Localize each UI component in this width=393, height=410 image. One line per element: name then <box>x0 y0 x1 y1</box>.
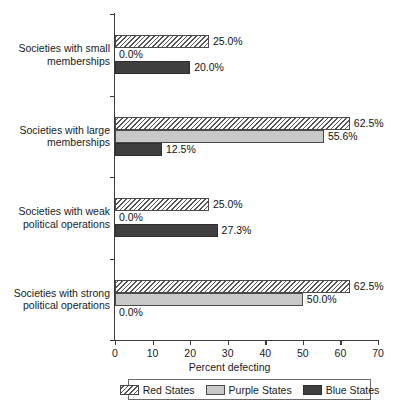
y-tick-1 <box>110 96 115 97</box>
legend-label-purple: Purple States <box>229 384 292 396</box>
legend-swatch-blue <box>303 385 322 395</box>
category-label-line: Societies with weak <box>2 205 110 218</box>
bar-value-label-blue-3: 0.0% <box>119 306 143 319</box>
bar-value-label-purple-0: 0.0% <box>119 48 143 61</box>
x-axis-title: Percent defecting <box>0 361 393 373</box>
bar-value-label-blue-2: 27.3% <box>222 224 252 237</box>
legend-label-blue: Blue States <box>326 384 380 396</box>
category-label-line: political operations <box>2 218 110 231</box>
bar-blue-2 <box>115 224 218 237</box>
x-tick-label-10: 10 <box>147 347 159 359</box>
legend-item-purple: Purple States <box>206 384 292 396</box>
category-label-line: Societies with strong <box>2 287 110 300</box>
x-tick-label-0: 0 <box>112 347 118 359</box>
x-tick-label-70: 70 <box>372 347 384 359</box>
category-label-line: memberships <box>2 136 110 149</box>
x-tick-label-50: 50 <box>297 347 309 359</box>
bar-value-label-purple-1: 55.6% <box>328 130 358 143</box>
x-tick-label-20: 20 <box>184 347 196 359</box>
category-label-line: memberships <box>2 55 110 68</box>
x-tick-40 <box>265 340 266 345</box>
bar-purple-3 <box>115 293 303 306</box>
x-tick-label-30: 30 <box>222 347 234 359</box>
bar-blue-1 <box>115 143 162 156</box>
bar-red-2 <box>115 198 209 211</box>
bar-red-3 <box>115 280 350 293</box>
bar-value-label-blue-1: 12.5% <box>166 143 196 156</box>
x-tick-label-40: 40 <box>259 347 271 359</box>
bar-value-label-red-2: 25.0% <box>213 198 243 211</box>
x-tick-10 <box>153 340 154 345</box>
y-tick-2 <box>110 177 115 178</box>
plot-area: 25.0%0.0%20.0%62.5%55.6%12.5%25.0%0.0%27… <box>115 14 378 340</box>
y-tick-0 <box>110 14 115 15</box>
legend-swatch-purple <box>206 385 225 395</box>
bar-red-1 <box>115 117 350 130</box>
category-label-line: Societies with small <box>2 42 110 55</box>
legend-label-red: Red States <box>143 384 195 396</box>
y-tick-3 <box>110 259 115 260</box>
legend-item-red: Red States <box>120 384 195 396</box>
x-tick-0 <box>115 340 116 345</box>
bar-purple-1 <box>115 130 324 143</box>
bar-value-label-purple-3: 50.0% <box>307 293 337 306</box>
x-tick-30 <box>228 340 229 345</box>
x-tick-60 <box>340 340 341 345</box>
category-label-1: Societies with largememberships <box>2 124 110 149</box>
bar-value-label-red-0: 25.0% <box>213 35 243 48</box>
category-label-3: Societies with strongpolitical operation… <box>2 287 110 312</box>
bar-value-label-red-3: 62.5% <box>354 280 384 293</box>
legend-item-blue: Blue States <box>303 384 380 396</box>
bar-value-label-red-1: 62.5% <box>354 117 384 130</box>
chart-legend: Red StatesPurple StatesBlue States <box>128 379 371 400</box>
category-label-line: political operations <box>2 299 110 312</box>
bar-value-label-blue-0: 20.0% <box>194 61 224 74</box>
category-label-line: Societies with large <box>2 124 110 137</box>
category-label-2: Societies with weakpolitical operations <box>2 205 110 230</box>
bar-red-0 <box>115 35 209 48</box>
bar-value-label-purple-2: 0.0% <box>119 211 143 224</box>
x-tick-50 <box>303 340 304 345</box>
x-tick-20 <box>190 340 191 345</box>
x-axis-title-text: Percent defecting <box>189 361 271 373</box>
x-tick-70 <box>378 340 379 345</box>
legend-swatch-red <box>120 385 139 395</box>
bar-blue-0 <box>115 61 190 74</box>
horizontal-bar-chart: 25.0%0.0%20.0%62.5%55.6%12.5%25.0%0.0%27… <box>0 0 393 410</box>
x-tick-label-60: 60 <box>335 347 347 359</box>
category-label-0: Societies with smallmemberships <box>2 42 110 67</box>
